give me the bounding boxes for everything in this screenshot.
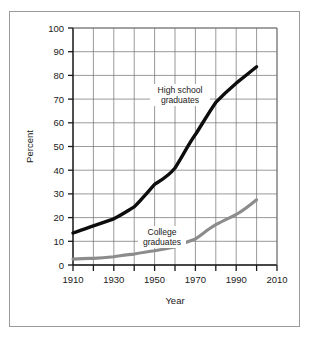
y-tick-label-100: 100 — [48, 23, 64, 34]
y-tick-label-90: 90 — [53, 46, 64, 57]
y-tick-label-0: 0 — [59, 260, 64, 271]
y-axis-title: Percent — [24, 130, 35, 163]
annotation-college-line1: College — [147, 227, 176, 237]
y-tick-label-60: 60 — [53, 117, 64, 128]
annotation-college-line2: graduates — [143, 237, 181, 247]
annotation-high-school-graduates: High school graduates — [150, 84, 210, 106]
annotation-college-graduates: College graduates — [138, 226, 186, 248]
y-tick-label-30: 30 — [53, 188, 64, 199]
x-axis-title: Year — [165, 295, 184, 306]
x-tick-label-2010: 2010 — [266, 274, 287, 285]
y-tick-label-70: 70 — [53, 94, 64, 105]
y-tick-label-40: 40 — [53, 165, 64, 176]
x-tick-label-1930: 1930 — [103, 274, 124, 285]
annotation-hs-line1: High school — [158, 85, 203, 95]
y-tick-label-10: 10 — [53, 236, 64, 247]
chart-figure: 100 90 80 70 60 50 40 30 20 10 0 — [0, 0, 310, 340]
annotation-hs-line2: graduates — [161, 95, 199, 105]
x-axis-tick-labels: 1910 1930 1950 1970 1990 2010 — [62, 274, 287, 285]
y-axis-ticks — [68, 28, 73, 265]
x-tick-label-1910: 1910 — [62, 274, 83, 285]
x-tick-label-1990: 1990 — [226, 274, 247, 285]
line-chart: 100 90 80 70 60 50 40 30 20 10 0 — [0, 0, 310, 340]
y-axis-tick-labels: 100 90 80 70 60 50 40 30 20 10 0 — [48, 23, 64, 271]
y-tick-label-80: 80 — [53, 70, 64, 81]
x-axis-ticks — [73, 265, 277, 271]
x-tick-label-1950: 1950 — [144, 274, 165, 285]
y-tick-label-20: 20 — [53, 212, 64, 223]
x-tick-label-1970: 1970 — [185, 274, 206, 285]
y-tick-label-50: 50 — [53, 141, 64, 152]
